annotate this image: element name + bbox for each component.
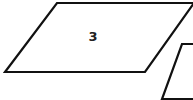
parallelogram-shape-3	[5, 3, 193, 72]
parallelogram-shape-partial	[162, 44, 193, 99]
diagram-canvas	[0, 0, 193, 100]
shape-label: 3	[88, 29, 97, 44]
